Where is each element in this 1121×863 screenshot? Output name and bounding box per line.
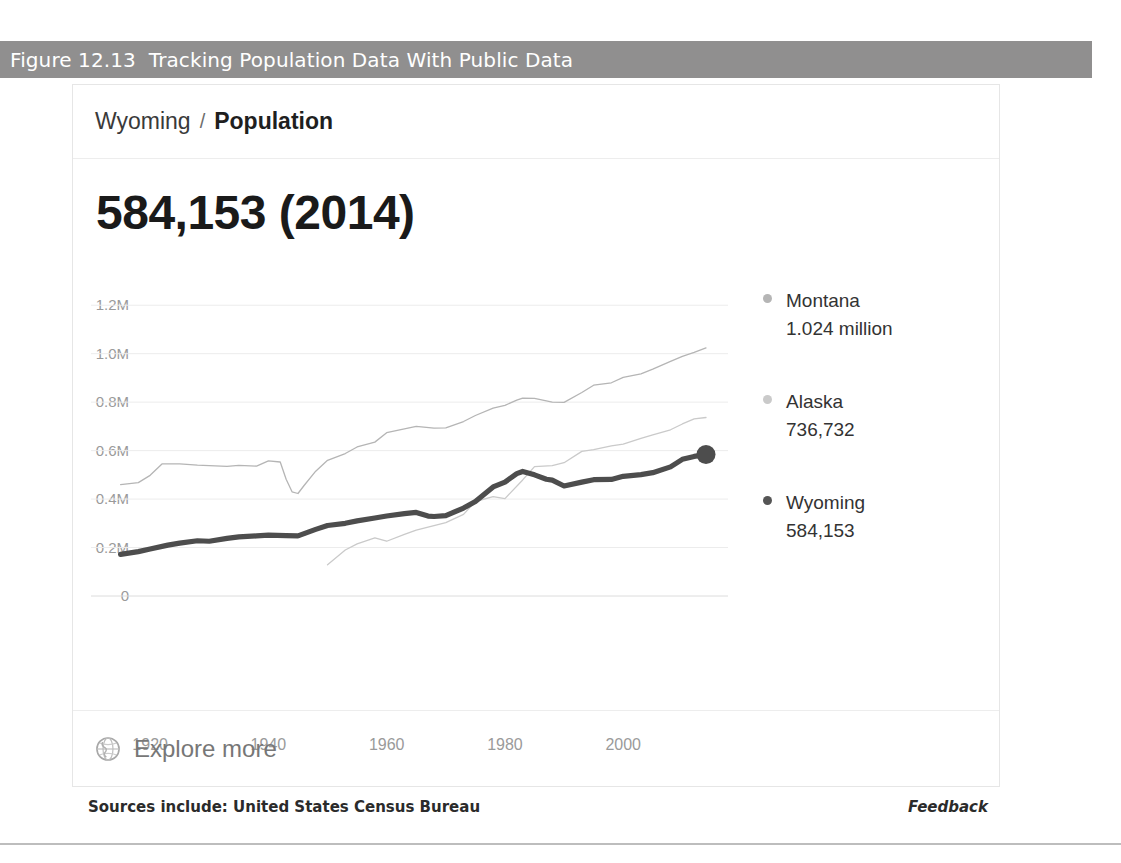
bottom-divider <box>0 843 1121 845</box>
sources-text: Sources include: United States Census Bu… <box>88 798 480 816</box>
chart-svg <box>91 281 751 651</box>
chart-series <box>121 348 706 565</box>
legend-item-montana[interactable]: Montana 1.024 million <box>763 287 893 342</box>
legend-dot-montana <box>763 294 772 303</box>
legend-item-wyoming[interactable]: Wyoming 584,153 <box>763 489 865 544</box>
globe-icon <box>95 736 121 762</box>
figure-footer: Sources include: United States Census Bu… <box>88 798 988 816</box>
breadcrumb: Wyoming / Population <box>73 85 999 159</box>
legend-value-montana: 1.024 million <box>786 315 893 343</box>
feedback-link[interactable]: Feedback <box>908 798 988 816</box>
chart-gridlines <box>91 305 728 596</box>
legend-value-wyoming: 584,153 <box>786 517 865 545</box>
breadcrumb-metric[interactable]: Population <box>214 108 333 135</box>
page-title: 584,153 (2014) <box>96 185 415 240</box>
breadcrumb-separator: / <box>200 110 206 133</box>
figure-title: Tracking Population Data With Public Dat… <box>149 48 573 72</box>
figure-caption-band: Figure 12.13 Tracking Population Data Wi… <box>0 41 1092 78</box>
data-card: Wyoming / Population 584,153 (2014) 1.2M… <box>72 84 1000 787</box>
breadcrumb-place[interactable]: Wyoming <box>95 108 191 135</box>
explore-more-label: Explore more <box>134 735 277 763</box>
legend-item-alaska[interactable]: Alaska 736,732 <box>763 388 855 443</box>
figure-caption-text: Figure 12.13 Tracking Population Data Wi… <box>0 48 573 72</box>
line-chart-plot[interactable] <box>91 281 751 651</box>
explore-more-row[interactable]: Explore more <box>73 710 999 786</box>
legend-value-alaska: 736,732 <box>786 416 855 444</box>
legend-name-wyoming: Wyoming <box>786 489 865 517</box>
legend-name-montana: Montana <box>786 287 893 315</box>
legend-dot-alaska <box>763 395 772 404</box>
legend-dot-wyoming <box>763 496 772 505</box>
legend-name-alaska: Alaska <box>786 388 855 416</box>
figure-number: Figure 12.13 <box>10 48 136 72</box>
chart-markers <box>697 445 716 464</box>
chart-region: 1.2M 1.0M 0.8M 0.6M 0.4M 0.2M 0 1920 194… <box>73 281 999 761</box>
